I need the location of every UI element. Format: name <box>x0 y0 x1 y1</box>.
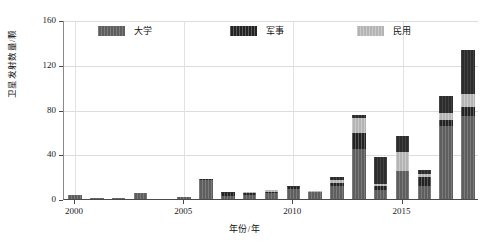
bar-segment-大学 <box>418 186 432 199</box>
bar-2000 <box>68 195 82 199</box>
bar-2009 <box>265 190 279 199</box>
x-tick-mark <box>292 200 293 204</box>
x-tick-label: 2015 <box>393 206 411 216</box>
bar-2008 <box>243 192 257 199</box>
y-tick-label: 160 <box>43 16 57 25</box>
bar-2005 <box>177 197 191 199</box>
legend-swatch-icon <box>98 26 125 36</box>
legend-item-民用[interactable]: 民用 <box>357 24 411 37</box>
bar-segment-军事 <box>439 120 453 127</box>
gridline <box>64 66 478 67</box>
bar-segment-民用 <box>439 113 453 120</box>
bar-segment-大学 <box>461 116 475 199</box>
x-tick-mark <box>402 200 403 204</box>
x-tick-mark <box>183 200 184 204</box>
bar-segment-民用 <box>461 94 475 107</box>
vertical-gridline <box>184 21 185 199</box>
bar-segment-大学 <box>112 198 126 199</box>
chart-legend: 大学军事民用商用 <box>98 24 428 37</box>
bar-2013 <box>352 115 366 199</box>
bar-2007 <box>221 192 235 199</box>
gridline <box>64 155 478 156</box>
bar-2016 <box>418 170 432 199</box>
bar-segment-大学 <box>396 171 410 199</box>
legend-label: 大学 <box>134 24 152 37</box>
bar-segment-军事 <box>352 133 366 149</box>
bar-segment-军事 <box>418 177 432 186</box>
bar-2017 <box>439 96 453 199</box>
bar-segment-大学 <box>68 195 82 199</box>
bar-segment-大学 <box>265 193 279 199</box>
y-tick-label: 40 <box>47 150 56 159</box>
gridline <box>64 111 478 112</box>
bar-segment-商用 <box>374 157 388 185</box>
bar-segment-大学 <box>374 190 388 199</box>
y-tick-label: 120 <box>43 61 57 70</box>
bar-2001 <box>90 198 104 199</box>
bar-segment-大学 <box>243 195 257 199</box>
bar-2014 <box>374 157 388 199</box>
plot-area <box>63 21 478 200</box>
bar-2012 <box>330 177 344 199</box>
x-tick-label: 2000 <box>65 206 83 216</box>
bar-segment-军事 <box>461 107 475 116</box>
bar-segment-大学 <box>330 186 344 199</box>
legend-label: 军事 <box>266 24 284 37</box>
gridline <box>64 21 478 22</box>
legend-item-军事[interactable]: 军事 <box>230 24 284 37</box>
bar-2011 <box>308 191 322 199</box>
bar-segment-民用 <box>396 152 410 171</box>
bar-segment-商用 <box>439 96 453 113</box>
bar-2015 <box>396 136 410 199</box>
bar-segment-大学 <box>134 193 148 199</box>
x-tick-mark <box>74 200 75 204</box>
bar-segment-大学 <box>199 180 213 199</box>
y-tick-mark <box>59 200 63 201</box>
y-tick-label: 0 <box>52 195 57 204</box>
vertical-gridline <box>75 21 76 199</box>
satellite-launch-stacked-bar-chart: 04080120160 卫星发射数量/颗 2000200520102015 年份… <box>0 0 489 244</box>
vertical-gridline <box>293 21 294 199</box>
bar-segment-大学 <box>352 149 366 199</box>
bar-2003 <box>134 193 148 199</box>
bar-segment-商用 <box>461 50 475 94</box>
bar-2006 <box>199 179 213 199</box>
bar-2018 <box>461 50 475 199</box>
bar-segment-大学 <box>90 198 104 199</box>
legend-swatch-icon <box>230 26 257 36</box>
bar-2002 <box>112 198 126 199</box>
bar-segment-商用 <box>396 136 410 152</box>
x-axis-title: 年份/年 <box>0 222 489 235</box>
bar-segment-大学 <box>177 197 191 199</box>
bar-segment-民用 <box>352 118 366 133</box>
legend-item-大学[interactable]: 大学 <box>98 24 152 37</box>
x-tick-label: 2010 <box>283 206 301 216</box>
y-axis-title: 卫星发射数量/颗 <box>5 9 17 119</box>
bar-segment-大学 <box>287 189 301 199</box>
bar-segment-大学 <box>439 126 453 199</box>
bar-segment-大学 <box>221 196 235 199</box>
legend-swatch-icon <box>357 26 384 36</box>
bar-segment-大学 <box>308 192 322 199</box>
bar-2010 <box>287 186 301 199</box>
x-tick-label: 2005 <box>174 206 192 216</box>
y-tick-label: 80 <box>47 106 56 115</box>
legend-label: 民用 <box>393 24 411 37</box>
